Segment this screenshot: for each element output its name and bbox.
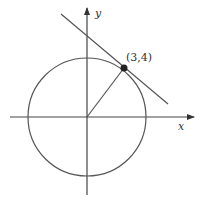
point-label: (3,4) (126, 51, 152, 64)
y-axis-label: y (94, 7, 102, 20)
tangent-point (121, 65, 128, 72)
diagram-canvas: (3,4) y x (0, 0, 201, 203)
radius-segment (87, 68, 124, 117)
x-axis-label: x (178, 120, 185, 133)
